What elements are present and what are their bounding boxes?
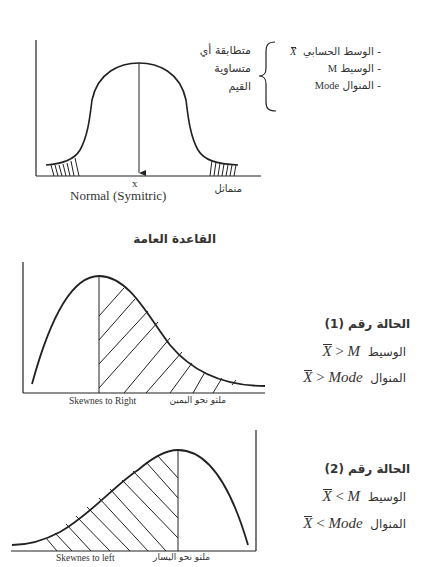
measure-mode-label: - المنوال	[343, 79, 381, 91]
case1-median-formula: X > M	[322, 343, 360, 359]
median-symbol: M	[348, 343, 361, 359]
operator: >	[312, 369, 328, 385]
mode-symbol: Mode	[328, 369, 362, 385]
operator: >	[332, 343, 348, 359]
symmetric-label: متماثل	[214, 183, 242, 194]
case2-mode-label: المنوال	[370, 517, 406, 531]
case1-mode-label: المنوال	[370, 371, 406, 385]
measure-mean-label: - الوسط الحسابي	[303, 45, 381, 57]
mean-symbol: X	[290, 46, 296, 57]
normal-chart-title: Normal (Symitric)	[70, 188, 166, 204]
case1-title: الحالة رقم (1)	[325, 317, 410, 331]
right-tail-hatch	[210, 160, 236, 176]
bell-curve	[46, 63, 238, 165]
mode-symbol: Mode	[328, 515, 362, 531]
measure-median: - الوسيط M	[328, 62, 381, 74]
right-skew-chart	[23, 262, 265, 393]
skew-right-curve	[32, 276, 265, 386]
case2-relation-mode: المنوال X < Mode	[303, 515, 406, 532]
brace-label-line-1: متطابقة أي	[200, 44, 251, 57]
xbar-symbol: X	[322, 488, 331, 505]
case1-relation-mode: المنوال X > Mode	[303, 369, 406, 386]
case1-caption-en: Skewnes to Right	[69, 396, 136, 406]
case2-relation-median: الوسيط X < M	[322, 488, 406, 505]
normal-curve-chart	[36, 40, 276, 176]
operator: <	[312, 515, 328, 531]
section-title: القاعدة العامة	[133, 232, 216, 246]
case2-caption-en: Skewnes to left	[56, 553, 115, 563]
curly-brace	[259, 42, 276, 111]
median-symbol: M	[348, 488, 361, 504]
case1-caption-ar: ملتو نحو اليمين	[169, 395, 226, 405]
case1-median-label: الوسيط	[368, 345, 406, 359]
measure-mode: - المنوال Mode	[315, 79, 381, 91]
mode-symbol: Mode	[315, 80, 340, 91]
xbar-symbol: X	[303, 369, 312, 386]
case2-mode-formula: X < Mode	[303, 515, 362, 531]
case1-relation-median: الوسيط X > M	[322, 343, 406, 360]
left-skew-hatch	[46, 455, 178, 551]
operator: <	[332, 488, 348, 504]
brace-label-line-3: القيم	[228, 80, 251, 93]
measure-median-label: - الوسيط	[340, 62, 381, 74]
measure-mean: - الوسط الحسابي X	[290, 45, 381, 57]
case1-mode-formula: X > Mode	[303, 369, 362, 385]
median-symbol: M	[328, 63, 337, 74]
case2-median-formula: X < M	[322, 488, 360, 504]
left-skew-chart	[11, 430, 256, 551]
brace-label-line-2: متساوية	[214, 62, 251, 75]
case2-caption-ar: ملتو نحو اليسار	[153, 552, 210, 562]
case2-title: الحالة رقم (2)	[325, 462, 410, 476]
case2-median-label: الوسيط	[368, 490, 406, 504]
xbar-symbol: X	[322, 343, 331, 360]
xbar-symbol: X	[303, 515, 312, 532]
skew-left-curve	[12, 450, 248, 545]
